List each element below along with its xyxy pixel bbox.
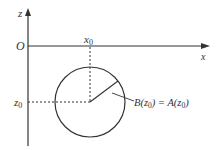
- boundary-condition-label: B(z0) = A(z0): [134, 97, 189, 110]
- diagram-canvas: z x O x0 z0 B(z0) = A(z0): [0, 0, 219, 150]
- x-axis-label: x: [200, 51, 206, 62]
- z-axis-arrow-icon: [25, 8, 31, 16]
- radius-line: [90, 81, 118, 102]
- origin-label: O: [16, 39, 25, 53]
- z-axis-label: z: [17, 7, 23, 19]
- x-axis-arrow-icon: [201, 43, 210, 49]
- x0-label: x0: [83, 33, 93, 47]
- annotation-leader: [112, 93, 134, 101]
- z0-label: z0: [13, 96, 22, 110]
